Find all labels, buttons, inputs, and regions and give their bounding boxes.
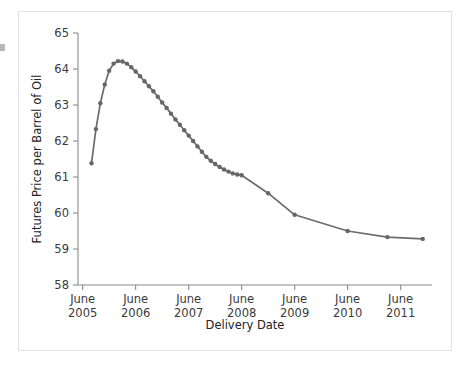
series-data-point — [160, 100, 164, 104]
series-data-point — [147, 84, 151, 88]
series-data-point — [217, 165, 221, 169]
series-data-point — [209, 159, 213, 163]
series-data-point — [226, 169, 230, 173]
x-axis: June2005June2006June2007June2008June2009… — [68, 285, 432, 332]
x-tick-label-month: June — [175, 292, 201, 306]
y-tick-label: 60 — [54, 206, 69, 220]
series-data-point — [156, 95, 160, 99]
y-axis: 5859606162636465 Futures Price per Barre… — [30, 26, 78, 292]
series-data-point — [151, 89, 155, 93]
series-data-point — [421, 237, 425, 241]
series-data-point — [200, 150, 204, 154]
series-line-futures-price — [92, 61, 423, 239]
series-data-point — [222, 167, 226, 171]
plot-area — [89, 59, 425, 241]
series-data-point — [94, 127, 98, 131]
series-data-point — [182, 128, 186, 132]
series-data-point — [107, 69, 111, 73]
figure-root: 5859606162636465 Futures Price per Barre… — [0, 0, 471, 367]
series-data-point — [213, 162, 217, 166]
x-tick-label-year: 2010 — [333, 306, 362, 320]
y-tick-label: 65 — [54, 26, 69, 40]
y-tick-label: 63 — [54, 98, 69, 112]
series-markers-futures-price — [89, 59, 425, 241]
x-axis-ticks — [83, 285, 401, 290]
series-data-point — [204, 155, 208, 159]
y-axis-tick-labels: 5859606162636465 — [54, 26, 69, 292]
x-axis-title: Delivery Date — [206, 318, 285, 332]
x-tick-label-year: 2006 — [121, 306, 150, 320]
x-tick-label-year: 2011 — [386, 306, 415, 320]
series-data-point — [103, 82, 107, 86]
series-data-point — [186, 133, 190, 137]
series-data-point — [345, 229, 349, 233]
series-data-point — [111, 61, 115, 65]
x-axis-tick-labels: June2005June2006June2007June2008June2009… — [68, 292, 415, 320]
series-data-point — [385, 235, 389, 239]
series-data-point — [231, 171, 235, 175]
line-chart: 5859606162636465 Futures Price per Barre… — [0, 0, 471, 367]
x-tick-label-month: June — [334, 292, 360, 306]
series-data-point — [239, 173, 243, 177]
x-tick-label-month: June — [387, 292, 413, 306]
series-data-point — [164, 106, 168, 110]
series-data-point — [266, 191, 270, 195]
y-tick-label: 64 — [54, 62, 69, 76]
x-tick-label-year: 2007 — [174, 306, 203, 320]
y-tick-label: 58 — [54, 278, 69, 292]
y-axis-title: Futures Price per Barrel of Oil — [30, 75, 44, 244]
series-data-point — [133, 69, 137, 73]
series-data-point — [142, 79, 146, 83]
y-tick-label: 59 — [54, 242, 69, 256]
series-data-point — [98, 101, 102, 105]
series-data-point — [178, 123, 182, 127]
series-data-point — [169, 111, 173, 115]
y-tick-label: 62 — [54, 134, 69, 148]
series-data-point — [191, 139, 195, 143]
x-tick-label-month: June — [228, 292, 254, 306]
series-data-point — [120, 59, 124, 63]
x-tick-label-month: June — [122, 292, 148, 306]
series-data-point — [125, 61, 129, 65]
y-tick-label: 61 — [54, 170, 69, 184]
series-data-point — [235, 172, 239, 176]
x-tick-label-month: June — [69, 292, 95, 306]
series-data-point — [173, 117, 177, 121]
series-data-point — [116, 59, 120, 63]
x-tick-label-year: 2005 — [68, 306, 97, 320]
y-axis-ticks — [73, 33, 78, 285]
series-data-point — [138, 74, 142, 78]
series-data-point — [292, 213, 296, 217]
x-tick-label-month: June — [281, 292, 307, 306]
series-data-point — [195, 144, 199, 148]
series-data-point — [89, 161, 93, 165]
series-data-point — [129, 65, 133, 69]
